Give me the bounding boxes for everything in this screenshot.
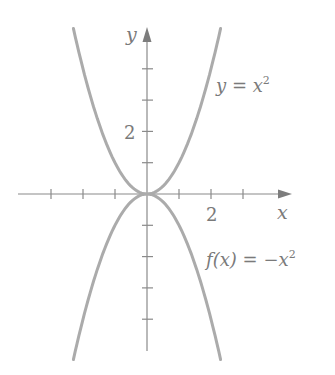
x-tick-label-2: 2 <box>206 204 217 225</box>
x-axis-label: x <box>277 201 288 223</box>
y-axis-label: y <box>125 23 137 45</box>
upper-curve-label: y = x2 <box>215 74 270 96</box>
parabola-chart: y x 2 2 y = x2 f(x) = −x2 <box>0 0 335 375</box>
y-tick-label-2: 2 <box>124 122 135 143</box>
lower-curve-label: f(x) = −x2 <box>204 248 296 270</box>
x-axis-arrow-icon <box>278 190 292 199</box>
y-axis-arrow-icon <box>143 27 152 42</box>
